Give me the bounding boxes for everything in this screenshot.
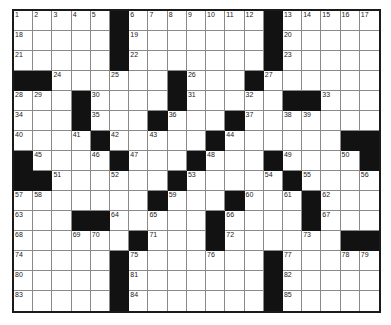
grid-cell[interactable] [225,251,244,271]
grid-cell[interactable] [360,51,379,71]
grid-cell[interactable] [168,131,187,151]
grid-cell[interactable] [245,151,264,171]
grid-cell[interactable] [187,191,206,211]
grid-cell[interactable]: 20 [283,31,302,51]
grid-cell[interactable] [245,231,264,251]
grid-cell[interactable] [91,251,110,271]
grid-cell[interactable]: 57 [14,191,33,211]
grid-cell[interactable] [360,111,379,131]
grid-cell[interactable] [283,231,302,251]
grid-cell[interactable] [341,91,360,111]
grid-cell[interactable]: 63 [14,211,33,231]
grid-cell[interactable] [33,111,52,131]
grid-cell[interactable]: 49 [283,151,302,171]
grid-cell[interactable]: 50 [341,151,360,171]
grid-cell[interactable] [264,211,283,231]
grid-cell[interactable] [168,51,187,71]
grid-cell[interactable] [245,171,264,191]
grid-cell[interactable] [52,271,71,291]
grid-cell[interactable] [110,111,129,131]
grid-cell[interactable]: 7 [148,11,167,31]
grid-cell[interactable] [52,191,71,211]
grid-cell[interactable] [341,171,360,191]
grid-cell[interactable] [321,231,340,251]
grid-cell[interactable]: 19 [129,31,148,51]
grid-cell[interactable]: 3 [52,11,71,31]
grid-cell[interactable] [91,51,110,71]
grid-cell[interactable]: 14 [302,11,321,31]
grid-cell[interactable] [91,171,110,191]
grid-cell[interactable] [360,31,379,51]
grid-cell[interactable] [52,91,71,111]
grid-cell[interactable]: 75 [129,251,148,271]
grid-cell[interactable]: 77 [283,251,302,271]
grid-cell[interactable]: 4 [72,11,91,31]
grid-cell[interactable] [187,31,206,51]
grid-cell[interactable] [225,291,244,311]
grid-cell[interactable] [52,211,71,231]
grid-cell[interactable] [110,191,129,211]
grid-cell[interactable]: 21 [14,51,33,71]
grid-cell[interactable]: 35 [91,111,110,131]
grid-cell[interactable]: 70 [91,231,110,251]
grid-cell[interactable]: 23 [283,51,302,71]
grid-cell[interactable] [302,251,321,271]
grid-cell[interactable] [206,91,225,111]
grid-cell[interactable] [33,251,52,271]
grid-cell[interactable]: 25 [110,71,129,91]
grid-cell[interactable] [206,291,225,311]
grid-cell[interactable] [129,71,148,91]
grid-cell[interactable]: 44 [225,131,244,151]
grid-cell[interactable] [225,91,244,111]
grid-cell[interactable] [187,251,206,271]
grid-cell[interactable] [148,271,167,291]
grid-cell[interactable]: 15 [321,11,340,31]
grid-cell[interactable]: 85 [283,291,302,311]
grid-cell[interactable] [341,211,360,231]
grid-cell[interactable] [148,91,167,111]
grid-cell[interactable] [52,151,71,171]
grid-cell[interactable]: 17 [360,11,379,31]
grid-cell[interactable] [168,211,187,231]
grid-cell[interactable] [206,271,225,291]
grid-cell[interactable] [72,291,91,311]
grid-cell[interactable] [321,151,340,171]
grid-cell[interactable] [52,231,71,251]
grid-cell[interactable] [225,171,244,191]
grid-cell[interactable] [321,271,340,291]
grid-cell[interactable]: 81 [129,271,148,291]
grid-cell[interactable] [225,31,244,51]
grid-cell[interactable] [321,31,340,51]
grid-cell[interactable] [168,291,187,311]
grid-cell[interactable] [341,271,360,291]
grid-cell[interactable]: 29 [33,91,52,111]
grid-cell[interactable] [110,231,129,251]
grid-cell[interactable]: 8 [168,11,187,31]
grid-cell[interactable]: 61 [283,191,302,211]
grid-cell[interactable] [264,191,283,211]
grid-cell[interactable] [187,291,206,311]
grid-cell[interactable] [187,231,206,251]
grid-cell[interactable] [33,211,52,231]
grid-cell[interactable]: 82 [283,271,302,291]
grid-cell[interactable]: 60 [245,191,264,211]
grid-cell[interactable] [302,131,321,151]
grid-cell[interactable] [360,191,379,211]
grid-cell[interactable]: 56 [360,171,379,191]
grid-cell[interactable] [72,171,91,191]
grid-cell[interactable]: 18 [14,31,33,51]
grid-cell[interactable] [148,31,167,51]
grid-cell[interactable] [72,271,91,291]
grid-cell[interactable] [110,91,129,111]
grid-cell[interactable] [33,271,52,291]
grid-cell[interactable] [168,31,187,51]
grid-cell[interactable] [225,71,244,91]
grid-cell[interactable]: 24 [52,71,71,91]
grid-cell[interactable]: 78 [341,251,360,271]
grid-cell[interactable] [33,51,52,71]
grid-cell[interactable]: 11 [225,11,244,31]
grid-cell[interactable] [225,271,244,291]
grid-cell[interactable] [187,111,206,131]
grid-cell[interactable] [52,251,71,271]
grid-cell[interactable] [52,131,71,151]
